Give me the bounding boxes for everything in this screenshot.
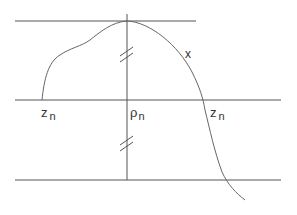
label-x: x <box>185 47 191 61</box>
label-z-right: zn <box>210 105 225 122</box>
diagram-canvas: zn ρn zn x <box>0 0 297 215</box>
label-z-left: zn <box>41 105 56 122</box>
label-rho: ρn <box>130 105 145 122</box>
